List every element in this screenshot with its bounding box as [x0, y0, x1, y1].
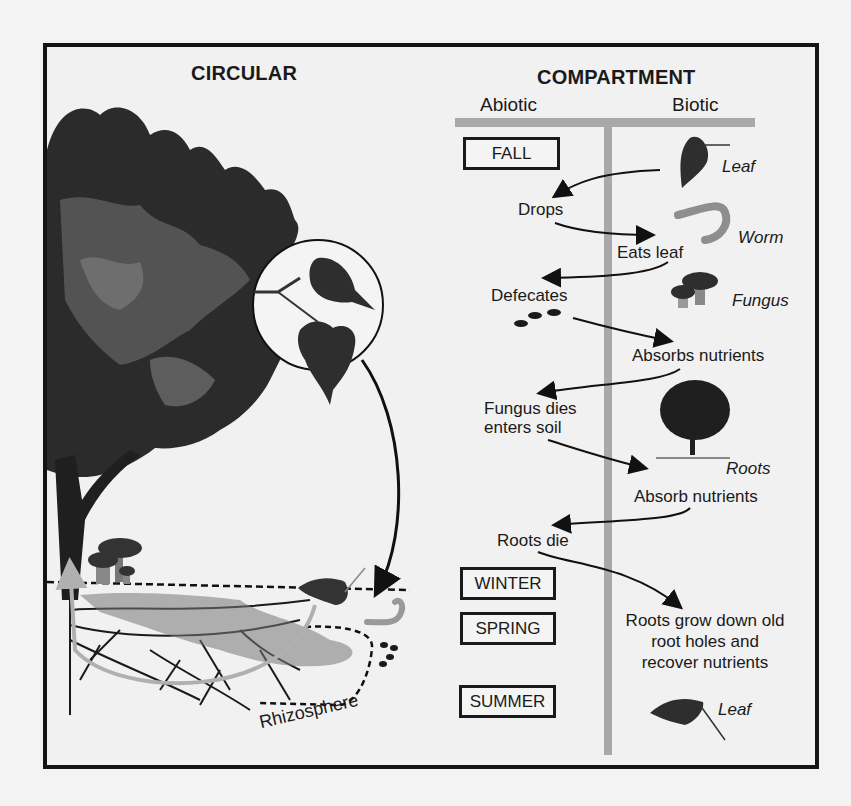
step-roots-die: Roots die	[497, 531, 569, 551]
step-absorb-nutrients: Absorb nutrients	[634, 487, 758, 507]
fall-arrow	[362, 360, 399, 590]
leaf-bottom-icon	[650, 699, 703, 725]
fungus-icon	[671, 272, 718, 308]
season-spring: SPRING	[460, 612, 556, 645]
abiotic-label: Abiotic	[480, 94, 537, 116]
t-bar-vertical	[604, 127, 612, 755]
ground-worm-icon	[367, 601, 402, 623]
season-fall: FALL	[463, 137, 560, 170]
step-defecates: Defecates	[491, 286, 568, 306]
organism-worm: Worm	[738, 228, 783, 248]
mushroom-icon	[88, 538, 142, 584]
step-fungus-dies: Fungus dies	[484, 399, 577, 419]
organism-leaf-top: Leaf	[722, 157, 755, 177]
step-roots-grow-1: Roots grow down old	[620, 611, 790, 631]
step-roots-grow-3: recover nutrients	[620, 653, 790, 673]
illustration	[0, 0, 851, 806]
organism-leaf-bottom: Leaf	[718, 700, 751, 720]
season-summer: SUMMER	[459, 685, 556, 718]
tree-icon	[47, 108, 304, 600]
season-winter: WINTER	[460, 567, 556, 600]
feces-icon	[379, 642, 398, 667]
step-drops: Drops	[518, 200, 563, 220]
biotic-label: Biotic	[672, 94, 718, 116]
step-absorbs-nutrients: Absorbs nutrients	[632, 346, 764, 366]
worm-icon	[678, 206, 726, 240]
step-roots-grow-2: root holes and	[620, 632, 790, 652]
magnified-leaf-icon	[253, 240, 383, 405]
organism-roots: Roots	[726, 459, 770, 479]
t-bar-horizontal	[455, 118, 755, 127]
circular-title: CIRCULAR	[191, 62, 297, 85]
roots-tree-icon	[656, 380, 730, 458]
step-enters-soil: enters soil	[484, 418, 561, 438]
organism-fungus: Fungus	[732, 291, 789, 311]
step-eats-leaf: Eats leaf	[617, 243, 683, 263]
compartment-title: COMPARTMENT	[537, 66, 695, 89]
